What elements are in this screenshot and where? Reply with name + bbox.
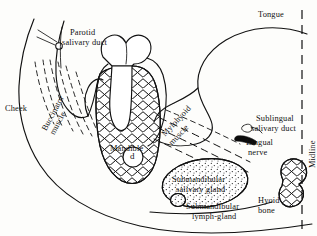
label-hyoid-line2: bone — [258, 206, 275, 216]
label-tooth-socket-letter: d — [130, 151, 135, 161]
label-lingual-line2: nerve — [248, 148, 267, 158]
label-hyoid-line1: Hyoid — [258, 196, 280, 206]
label-parotid-duct-line2: salivary duct — [62, 38, 107, 48]
label-submandibular-lymph-line2: lymph-gland — [192, 212, 236, 222]
label-midline: Midline — [308, 140, 317, 168]
label-tongue: Tongue — [258, 10, 284, 20]
label-sublingual-line1: Sublingual — [256, 114, 294, 124]
label-cheek: Cheek — [5, 104, 27, 114]
label-parotid-duct-line1: Parotid — [70, 28, 95, 38]
label-mandible: Mandible — [110, 144, 143, 154]
label-submandibular-gland-line1: Submandibular — [172, 175, 225, 185]
label-lingual-line1: Lingual — [246, 138, 273, 148]
label-submandibular-lymph-line1: Submandibular — [186, 202, 239, 212]
label-sublingual-line2: salivary duct — [251, 124, 296, 134]
parotid-salivary-duct — [37, 27, 62, 68]
anatomical-diagram: Cheek Parotid salivary duct Buccinator m… — [0, 0, 317, 236]
label-submandibular-gland-line2: salivary gland — [176, 185, 225, 195]
